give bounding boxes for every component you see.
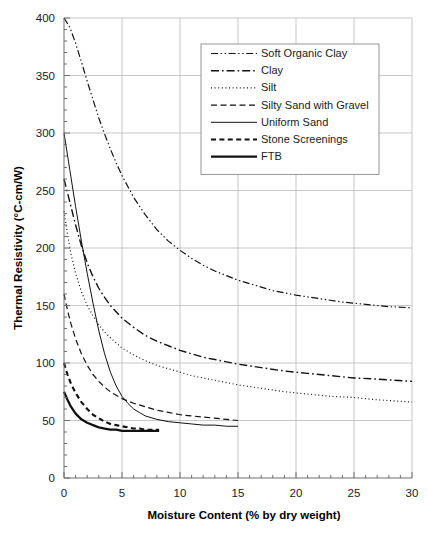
y-tick-label: 150 xyxy=(36,300,55,312)
legend-item-label: Soft Organic Clay xyxy=(261,47,348,59)
legend-item-label: Silt xyxy=(261,81,276,93)
x-axis-title: Moisture Content (% by dry weight) xyxy=(148,509,341,521)
chart-canvas: 050100150200250300350400051015202530Mois… xyxy=(0,0,428,539)
y-axis-title: Thermal Resistivity (°C-cm/W) xyxy=(12,166,24,330)
x-tick-label: 10 xyxy=(174,487,187,499)
thermal-resistivity-chart: 050100150200250300350400051015202530Mois… xyxy=(0,0,428,539)
x-tick-label: 30 xyxy=(406,487,419,499)
x-tick-label: 20 xyxy=(290,487,303,499)
y-tick-labels: 050100150200250300350400 xyxy=(36,12,55,484)
y-tick-label: 250 xyxy=(36,185,55,197)
legend-item-label: Stone Screenings xyxy=(261,133,348,145)
x-tick-label: 5 xyxy=(119,487,125,499)
x-tick-label: 0 xyxy=(61,487,67,499)
y-tick-label: 200 xyxy=(36,242,55,254)
x-tick-label: 25 xyxy=(348,487,361,499)
axis-titles: Moisture Content (% by dry weight)Therma… xyxy=(12,166,341,521)
legend-item-label: Uniform Sand xyxy=(261,116,328,128)
series-stone-screenings xyxy=(64,363,159,430)
series-silty-sand-with-gravel xyxy=(64,294,238,421)
legend-item-label: Silty Sand with Gravel xyxy=(261,99,369,111)
y-tick-label: 100 xyxy=(36,357,55,369)
y-tick-label: 400 xyxy=(36,12,55,24)
x-tick-labels: 051015202530 xyxy=(61,487,419,499)
y-tick-label: 300 xyxy=(36,127,55,139)
y-tick-label: 0 xyxy=(49,472,55,484)
legend: Soft Organic ClayClaySiltSilty Sand with… xyxy=(201,44,379,174)
legend-item-label: FTB xyxy=(261,150,282,162)
y-tick-label: 50 xyxy=(42,415,55,427)
y-tick-label: 350 xyxy=(36,70,55,82)
series-uniform-sand xyxy=(64,133,238,426)
x-tick-label: 15 xyxy=(232,487,245,499)
legend-item-label: Clay xyxy=(261,64,284,76)
